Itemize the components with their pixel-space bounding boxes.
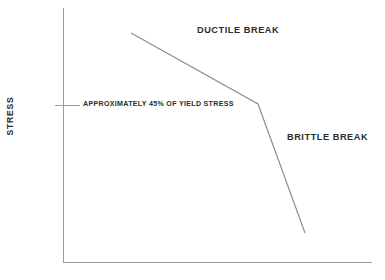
brittle-break-label: BRITTLE BREAK bbox=[287, 133, 368, 142]
ductile-break-label: DUCTILE BREAK bbox=[197, 26, 279, 35]
yield-stress-annotation-label: APPROXIMATELY 45% OF YIELD STRESS bbox=[83, 101, 234, 108]
y-axis-label: STRESS bbox=[6, 94, 15, 138]
fracture-curve bbox=[131, 33, 305, 233]
stress-break-chart: DUCTILE BREAK BRITTLE BREAK APPROXIMATEL… bbox=[0, 0, 385, 280]
